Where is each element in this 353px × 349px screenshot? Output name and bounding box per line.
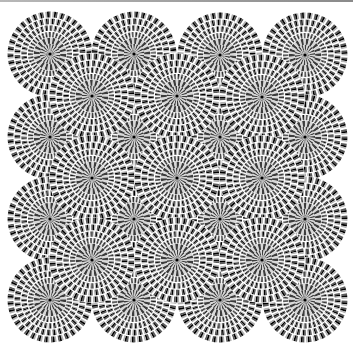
illusion-disk xyxy=(49,217,135,303)
illusion-disk xyxy=(134,217,220,303)
illusion-canvas xyxy=(0,0,353,349)
illusion-disk xyxy=(49,135,135,221)
illusion-disk xyxy=(219,135,305,221)
illusion-disk xyxy=(219,217,305,303)
illusion-disk xyxy=(49,53,135,139)
illusion-disk xyxy=(219,54,305,140)
illusion-disk xyxy=(134,135,220,221)
illusion-disk xyxy=(134,53,220,139)
